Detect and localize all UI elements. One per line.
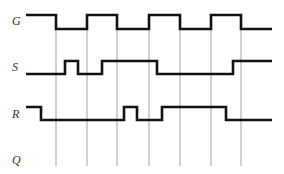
vertical-guide-lines xyxy=(56,29,241,166)
timing-diagram: G S R Q xyxy=(0,0,284,174)
waveform-g xyxy=(26,15,272,29)
signal-label-q: Q xyxy=(12,153,21,167)
signal-label-g: G xyxy=(12,14,21,28)
signal-labels: G S R Q xyxy=(11,14,21,167)
signal-label-r: R xyxy=(11,107,20,121)
signal-label-s: S xyxy=(12,60,18,74)
